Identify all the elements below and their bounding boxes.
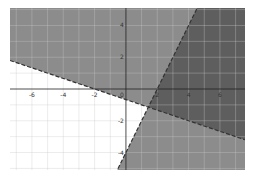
y-tick-label: 4 [120, 21, 124, 28]
x-tick-label: 0 [120, 91, 124, 98]
x-tick-label: -2 [92, 91, 98, 98]
x-tick-label: -6 [29, 91, 35, 98]
y-tick-label: -4 [118, 149, 124, 156]
inequality-graph: -6-4-2024642-2-4 [0, 0, 255, 179]
x-tick-label: 4 [187, 91, 191, 98]
x-tick-label: 6 [218, 91, 222, 98]
y-tick-label: -2 [118, 117, 124, 124]
y-tick-label: 2 [120, 53, 124, 60]
x-tick-label: -4 [60, 91, 66, 98]
x-tick-label: 2 [155, 91, 159, 98]
